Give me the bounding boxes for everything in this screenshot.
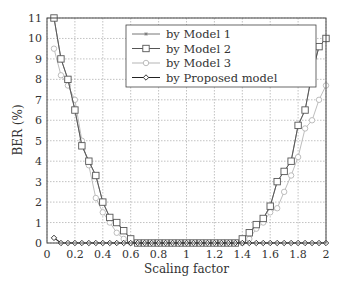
y-axis-ticks: 01234567891011 xyxy=(28,12,42,250)
circle-marker xyxy=(274,206,279,211)
square-marker xyxy=(100,199,106,205)
circle-marker xyxy=(281,189,286,194)
circle-marker xyxy=(143,60,148,65)
x-axis-label: Scaling factor xyxy=(144,262,229,276)
circle-marker xyxy=(93,195,98,200)
y-tick-label: 10 xyxy=(28,32,42,45)
y-tick-label: 2 xyxy=(35,196,42,209)
square-marker xyxy=(274,178,280,184)
square-marker xyxy=(260,215,266,221)
y-tick-label: 5 xyxy=(35,135,42,148)
x-tick-label: 1.8 xyxy=(289,248,307,261)
legend-label: by Proposed model xyxy=(166,71,278,85)
x-axis-ticks: 00.20.40.60.811.21.41.61.82 xyxy=(44,248,330,261)
x-tick-label: 0.8 xyxy=(150,248,168,261)
square-marker xyxy=(107,214,113,220)
legend-label: by Model 1 xyxy=(166,27,231,41)
circle-marker xyxy=(114,230,119,235)
circle-marker xyxy=(302,126,307,131)
y-tick-label: 0 xyxy=(35,237,42,250)
x-tick-label: 1.4 xyxy=(234,248,252,261)
legend: by Model 1by Model 2by Model 3by Propose… xyxy=(126,25,316,87)
y-tick-label: 1 xyxy=(35,217,42,230)
y-tick-label: 11 xyxy=(28,12,42,25)
x-tick-label: 1 xyxy=(183,248,190,261)
square-marker xyxy=(302,107,308,113)
legend-label: by Model 3 xyxy=(166,56,231,70)
square-marker xyxy=(253,221,259,227)
star-marker xyxy=(144,32,148,36)
square-marker xyxy=(65,76,71,82)
y-tick-label: 4 xyxy=(35,155,42,168)
y-tick-label: 6 xyxy=(35,114,42,127)
y-tick-label: 3 xyxy=(35,176,42,189)
ber-line-chart: 00.20.40.60.811.21.41.61.82 012345678910… xyxy=(0,0,347,284)
y-tick-label: 8 xyxy=(35,73,42,86)
y-tick-label: 7 xyxy=(35,94,42,107)
square-marker xyxy=(79,143,85,149)
circle-marker xyxy=(295,154,300,159)
circle-marker xyxy=(100,210,105,215)
x-tick-label: 2 xyxy=(323,248,330,261)
x-tick-label: 0.4 xyxy=(94,248,112,261)
square-marker xyxy=(267,203,273,209)
square-marker xyxy=(86,158,92,164)
legend-label: by Model 2 xyxy=(166,42,231,56)
x-tick-label: 0.2 xyxy=(66,248,84,261)
square-marker xyxy=(58,56,64,62)
square-marker xyxy=(143,45,149,51)
square-marker xyxy=(316,43,322,49)
square-marker xyxy=(281,168,287,174)
x-tick-label: 1.2 xyxy=(206,248,224,261)
square-marker xyxy=(114,219,120,225)
square-marker xyxy=(246,230,252,236)
circle-marker xyxy=(309,118,314,123)
y-axis-label: BER (%) xyxy=(11,104,25,155)
square-marker xyxy=(93,172,99,178)
y-tick-label: 9 xyxy=(35,53,42,66)
square-marker xyxy=(121,228,127,234)
x-tick-label: 0 xyxy=(44,248,51,261)
x-tick-label: 1.6 xyxy=(261,248,279,261)
circle-marker xyxy=(288,173,293,178)
circle-marker xyxy=(51,46,56,51)
circle-marker xyxy=(316,97,321,102)
square-marker xyxy=(288,158,294,164)
circle-marker xyxy=(58,73,63,78)
square-marker xyxy=(72,107,78,113)
x-tick-label: 0.6 xyxy=(122,248,140,261)
square-marker xyxy=(295,122,301,128)
